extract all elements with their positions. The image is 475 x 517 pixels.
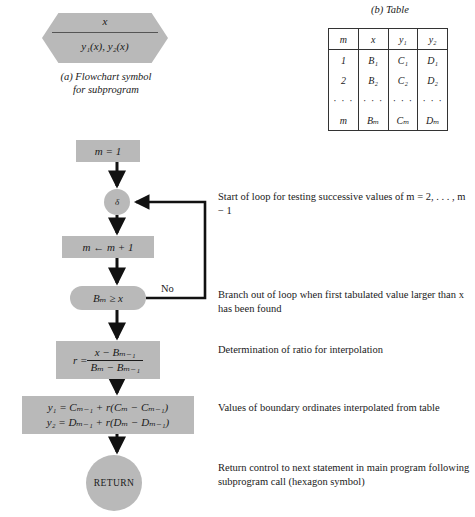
interpolation-table: m x y₁ y₂ 1 B₁ C₁ D₁ 2 B₂ C₂ D₂ · · · · … (328, 28, 448, 131)
table-row: m Bₘ Cₘ Dₘ (329, 110, 448, 131)
table-cell: Bₘ (358, 110, 388, 131)
table-cell: B₁ (358, 50, 388, 71)
flowchart-figure: x y₁(x), y₂(x) (a) Flowchart symbol for … (0, 0, 475, 517)
ratio-denominator: Bₘ − Bₘ₋₁ (87, 361, 142, 375)
ratio-fraction: x − Bₘ₋₁ Bₘ − Bₘ₋₁ (87, 346, 142, 375)
table-cell: · · · (329, 90, 359, 110)
table-header-cell: m (329, 29, 359, 50)
hexagon-output-label: y₁(x), y₂(x) (42, 40, 168, 52)
terminal-return: RETURN (86, 455, 142, 511)
hexagon-divider (52, 32, 158, 33)
hexagon-subprogram-symbol: x y₁(x), y₂(x) (42, 13, 168, 63)
caption-panel-a: (a) Flowchart symbol for subprogram (20, 70, 192, 96)
table-cell: C₂ (388, 70, 418, 90)
table-cell: · · · (388, 90, 418, 110)
table-header-cell: y₁ (388, 29, 418, 50)
process-box-ratio: r = x − Bₘ₋₁ Bₘ − Bₘ₋₁ (56, 341, 160, 379)
table-cell: 1 (329, 50, 359, 71)
table-cell: 2 (329, 70, 359, 90)
annotation-loop-start: Start of loop for testing successive val… (218, 190, 470, 218)
hexagon-input-label: x (42, 15, 168, 27)
process-box-interpolation: y₁ = Cₘ₋₁ + r(Cₘ − Cₘ₋₁) y₂ = Dₘ₋₁ + r(D… (22, 396, 194, 434)
table-cell: m (329, 110, 359, 131)
table-cell: D₂ (418, 70, 448, 90)
caption-panel-b: (b) Table (330, 4, 450, 15)
table-row: 2 B₂ C₂ D₂ (329, 70, 448, 90)
table-cell: · · · (358, 90, 388, 110)
annotation-ratio: Determination of ratio for interpolation (218, 343, 470, 357)
annotation-values: Values of boundary ordinates interpolate… (218, 401, 470, 415)
branch-label-no: No (161, 283, 174, 294)
table-row-ellipsis: · · · · · · · · · · · · (329, 90, 448, 110)
table-cell: D₁ (418, 50, 448, 71)
table-cell: Cₘ (388, 110, 418, 131)
table-cell: B₂ (358, 70, 388, 90)
table-header-row: m x y₁ y₂ (329, 29, 448, 50)
process-box-initialize: m = 1 (76, 140, 140, 162)
caption-a-line2: for subprogram (73, 84, 139, 95)
table-cell: Dₘ (418, 110, 448, 131)
ratio-numerator: x − Bₘ₋₁ (87, 346, 142, 361)
loop-connector-circle: δ (104, 189, 130, 215)
decision-box-compare: Bₘ ≥ x (70, 286, 146, 310)
process-box-increment: m ← m + 1 (62, 236, 154, 258)
table-header-cell: x (358, 29, 388, 50)
table-cell: C₁ (388, 50, 418, 71)
caption-a-line1: (a) Flowchart symbol (61, 71, 152, 82)
interp-equation-y1: y₁ = Cₘ₋₁ + r(Cₘ − Cₘ₋₁) (47, 400, 169, 415)
ratio-lhs: r = (73, 354, 87, 366)
interp-equation-y2: y₂ = Dₘ₋₁ + r(Dₘ − Dₘ₋₁) (47, 415, 169, 430)
annotation-branch-out: Branch out of loop when first tabulated … (218, 288, 470, 316)
table-header-cell: y₂ (418, 29, 448, 50)
table-cell: · · · (418, 90, 448, 110)
table-row: 1 B₁ C₁ D₁ (329, 50, 448, 71)
annotation-return: Return control to next statement in main… (218, 461, 470, 489)
